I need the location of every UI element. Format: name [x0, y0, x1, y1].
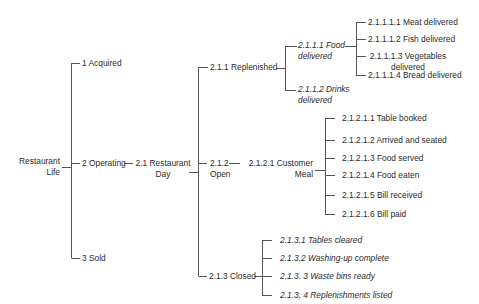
node-tables-cleared: 2.1.3.1 Tables cleared: [280, 235, 362, 246]
node-food-delivered: 2.1.1.1 Food delivered: [298, 40, 345, 61]
node-label: 2.1.2: [210, 158, 231, 169]
node-washing-up: 2.1.3.2 Washing-up complete: [280, 253, 389, 264]
node-meat-delivered: 2.1.1.1.1 Meat delivered: [368, 17, 458, 28]
node-open: 2.1.2 Open: [210, 158, 231, 179]
node-restaurant-day: 2.1 Restaurant Day: [135, 158, 191, 179]
node-replenishments-listed: 2.1.3. 4 Replenishments listed: [280, 290, 392, 301]
node-label: 2.1.1.1.3 Vegetables: [368, 51, 448, 62]
node-closed: 2.1.3 Closed: [209, 271, 256, 282]
node-label: Open: [210, 169, 231, 180]
node-waste-bins: 2.1.3. 3 Waste bins ready: [280, 271, 375, 282]
node-sold: 3 Sold: [82, 253, 106, 264]
node-bread-delivered: 2.1.1.1.4 Bread delivered: [368, 70, 462, 81]
node-label: Meal: [242, 169, 313, 180]
node-table-booked: 2.1.2.1.1 Table booked: [342, 113, 427, 124]
node-restaurant-life: Restaurant Life: [4, 156, 60, 177]
node-fish-delivered: 2.1.1.1.2 Fish delivered: [368, 34, 455, 45]
node-food-served: 2.1.2.1.3 Food served: [342, 153, 423, 164]
node-label: 2.1 Restaurant: [135, 158, 191, 169]
node-food-eaten: 2.1.2.1.4 Food eaten: [342, 170, 419, 181]
node-bill-received: 2.1.2.1.5 Bill received: [342, 190, 422, 201]
node-operating: 2 Operating: [82, 158, 126, 169]
node-label: 2.1.2.1 Customer: [242, 158, 313, 169]
node-bill-paid: 2.1.2.1.6 Bill paid: [342, 209, 406, 220]
node-acquired: 1 Acquired: [82, 58, 122, 69]
node-label: Life: [4, 167, 60, 178]
node-label: delivered: [298, 51, 345, 62]
node-drinks-delivered: 2.1.1.2 Drinks delivered: [298, 84, 350, 105]
node-customer-meal: 2.1.2.1 Customer Meal: [242, 158, 313, 179]
node-arrived-seated: 2.1.2.1.2 Arrived and seated: [342, 135, 447, 146]
node-label: 2.1.1.2 Drinks: [298, 84, 350, 95]
node-label: Day: [135, 169, 191, 180]
node-vegetables-delivered: 2.1.1.1.3 Vegetables delivered: [368, 51, 448, 72]
node-label: 2.1.1.1 Food: [298, 40, 345, 51]
node-label: Restaurant: [4, 156, 60, 167]
node-label: delivered: [298, 95, 350, 106]
node-replenished: 2.1.1 Replenished: [210, 62, 278, 73]
connector-lines: [0, 0, 479, 304]
hierarchy-diagram: Restaurant Life 1 Acquired 2 Operating 3…: [0, 0, 479, 304]
